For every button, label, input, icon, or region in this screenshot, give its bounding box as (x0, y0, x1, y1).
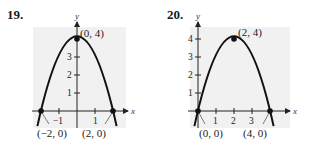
graph-19: x y −1 1 1 2 3 (0, 4) (−2, 0) (2, 0) (32, 11, 135, 140)
vertex-point (74, 36, 80, 42)
x-axis-label: x (130, 106, 135, 116)
y-tick-label: 3 (67, 52, 72, 62)
vertex-label: (0, 4) (80, 27, 104, 40)
y-axis-label: y (195, 11, 200, 21)
y-tick-label: 1 (67, 88, 72, 98)
x-intercept-point (195, 108, 201, 114)
plot-panel (190, 27, 290, 128)
x-tick-label: 1 (213, 116, 218, 126)
y-tick-label: 2 (67, 70, 72, 80)
x-intercept-point (110, 108, 116, 114)
y-tick-label: 1 (188, 88, 193, 98)
x-tick-label: 2 (231, 116, 236, 126)
graph-20: x y 1 2 3 1 2 3 4 (2, 4) (0, 0) (4, 0) (188, 11, 297, 140)
vertex-label: (2, 4) (238, 26, 262, 39)
graphs-canvas: x y −1 1 1 2 3 (0, 4) (−2, 0) (2, 0) x y (0, 0, 309, 149)
x-tick-label: −1 (53, 116, 63, 126)
x-axis-label: x (292, 106, 297, 116)
x-tick-label: 3 (249, 116, 254, 126)
x-intercept-point (267, 108, 273, 114)
y-axis-label: y (74, 11, 79, 21)
x-tick-label: 1 (93, 116, 98, 126)
x-intercept-point (38, 108, 44, 114)
y-tick-label: 4 (188, 34, 193, 44)
intercept-label: (−2, 0) (37, 127, 67, 140)
y-tick-label: 3 (188, 52, 193, 62)
intercept-label: (2, 0) (82, 127, 106, 140)
y-tick-label: 2 (188, 70, 193, 80)
intercept-label: (4, 0) (243, 127, 267, 140)
intercept-label: (0, 0) (199, 127, 223, 140)
vertex-point (231, 36, 237, 42)
